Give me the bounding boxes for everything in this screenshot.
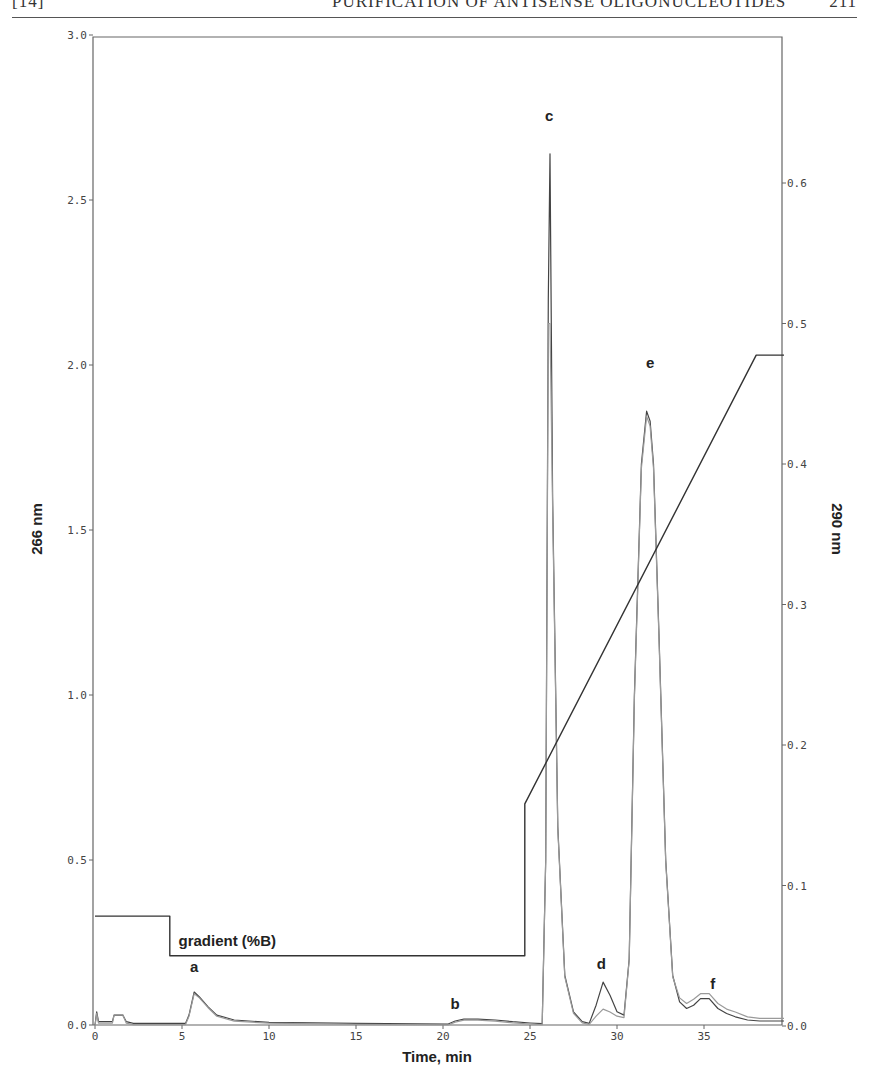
y-right-tick-label: 0.6 bbox=[787, 177, 807, 190]
x-tick-label: 10 bbox=[262, 1030, 275, 1043]
y-left-tick-label: 3.0 bbox=[67, 29, 87, 42]
peak-label-f: f bbox=[710, 975, 716, 992]
y-left-tick-label: 0.0 bbox=[67, 1019, 87, 1032]
y-right-tick-label: 0.3 bbox=[787, 599, 807, 612]
y-right-tick-label: 0.5 bbox=[787, 318, 807, 331]
peak-label-c: c bbox=[545, 107, 553, 124]
x-tick-label: 35 bbox=[697, 1030, 710, 1043]
trace-290-nm bbox=[95, 324, 784, 1027]
y-left-tick-label: 0.5 bbox=[67, 854, 87, 867]
y-left-tick-label: 1.0 bbox=[67, 689, 87, 702]
x-tick-label: 5 bbox=[179, 1030, 186, 1043]
y-axis-right-title: 290 nm bbox=[829, 503, 846, 555]
x-tick-label: 20 bbox=[436, 1030, 449, 1043]
y-right-tick-label: 0.0 bbox=[787, 1020, 807, 1033]
x-tick-label: 30 bbox=[610, 1030, 623, 1043]
chart-traces bbox=[95, 154, 784, 1026]
peak-label-a: a bbox=[190, 958, 199, 975]
peak-label-e: e bbox=[646, 354, 654, 371]
y-right-tick-label: 0.2 bbox=[787, 739, 807, 752]
y-left-tick-label: 2.5 bbox=[67, 194, 87, 207]
peak-label-d: d bbox=[597, 955, 606, 972]
plot-frame bbox=[93, 37, 782, 1025]
peak-label-b: b bbox=[451, 995, 460, 1012]
y-right-tick-label: 0.1 bbox=[787, 880, 807, 893]
y-left-tick-label: 2.0 bbox=[67, 359, 87, 372]
y-axis-left-title: 266 nm bbox=[28, 503, 45, 555]
x-tick-label: 0 bbox=[92, 1030, 99, 1043]
x-tick-label: 15 bbox=[349, 1030, 362, 1043]
y-left-tick-label: 1.5 bbox=[67, 524, 87, 537]
chart-axes: 0.00.51.01.52.02.53.00.00.10.20.30.40.50… bbox=[67, 29, 807, 1043]
y-right-tick-label: 0.4 bbox=[787, 458, 807, 471]
x-axis-title: Time, min bbox=[402, 1048, 472, 1065]
x-tick-label: 25 bbox=[523, 1030, 536, 1043]
gradient-label: gradient (%B) bbox=[179, 932, 277, 949]
chromatogram-chart: 0.00.51.01.52.02.53.00.00.10.20.30.40.50… bbox=[0, 0, 875, 1076]
trace-266-nm bbox=[95, 154, 784, 1025]
chart-labels: abcdefgradient (%B) bbox=[179, 107, 717, 1012]
trace-gradient-b- bbox=[95, 355, 784, 956]
